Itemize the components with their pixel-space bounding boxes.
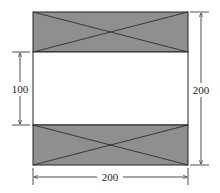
left-dimension: 100 <box>12 52 30 125</box>
bottom-dimension: 200 <box>33 168 188 185</box>
bottom-band <box>33 125 188 165</box>
left-dimension-label: 100 <box>12 83 29 95</box>
bottom-dimension-label: 200 <box>102 171 119 183</box>
right-dimension-label: 200 <box>193 84 210 96</box>
top-band <box>33 12 188 52</box>
right-dimension: 200 <box>190 12 210 165</box>
section-diagram: 100 200 200 <box>0 0 220 193</box>
middle-gap <box>33 52 188 125</box>
